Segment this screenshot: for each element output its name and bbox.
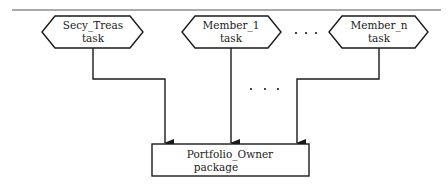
task-label-line1: Member_n (351, 19, 408, 32)
edge-member-n-to-portfolio-owner (297, 48, 379, 143)
package-node-portfolio-owner[interactable]: Portfolio_Owner package (152, 144, 309, 176)
task-label-line2: task (220, 32, 243, 44)
ellipsis-between-tasks (295, 32, 317, 34)
task-label-line2: task (368, 32, 391, 44)
task-label-line1: Secy_Treas (63, 19, 123, 32)
task-node-member-n[interactable]: Member_n task (329, 16, 428, 48)
structure-diagram: Secy_Treas task Member_1 task Member_n t… (0, 0, 448, 192)
package-label-line1: Portfolio_Owner (187, 148, 274, 161)
task-node-member-1[interactable]: Member_1 task (182, 16, 281, 48)
task-node-secy-treas[interactable]: Secy_Treas task (42, 16, 143, 48)
task-label-line2: task (82, 32, 105, 44)
edge-secy-treas-to-portfolio-owner (93, 48, 165, 143)
package-label-line2: package (194, 161, 238, 173)
task-label-line1: Member_1 (203, 19, 260, 32)
ellipsis-between-arrows (250, 88, 279, 90)
